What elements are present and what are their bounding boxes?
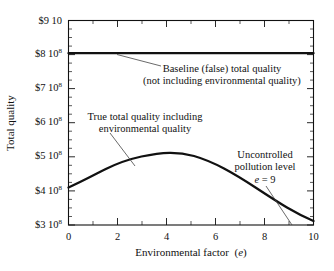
- x-tick-label-8: 8: [262, 231, 267, 242]
- annotation-uncontrolled-eq: = 9: [259, 174, 275, 185]
- annotation-uncontrolled-leader: [266, 186, 292, 225]
- y-axis-tick-labels: $9 10 $8 108 $7 108 $6 108 $5 108 $4 108…: [35, 15, 63, 230]
- annotation-uncontrolled-line1: Uncontrolled: [237, 149, 293, 160]
- y-tick-label-9e8: $9 10: [38, 15, 62, 26]
- x-axis-tick-labels: 0 2 4 6 8 10: [66, 231, 319, 242]
- annotation-baseline-line2: (not including environmental quality): [143, 75, 301, 87]
- y-tick-label-8e8: $8 108: [35, 47, 63, 59]
- y-tick-label-4e8: $4 108: [35, 184, 63, 196]
- annotation-uncontrolled: Uncontrolled pollution level e = 9: [235, 149, 296, 225]
- x-tick-label-4: 4: [164, 231, 170, 242]
- y-tick-label-7e8: $7 108: [35, 81, 63, 93]
- y-axis-right-ticks: [307, 21, 314, 226]
- chart-svg: $9 10 $8 108 $7 108 $6 108 $5 108 $4 108…: [0, 0, 334, 271]
- x-axis-title: Environmental factor (e): [135, 246, 247, 259]
- x-axis-ticks: [69, 218, 314, 225]
- x-axis-top-ticks: [69, 21, 314, 28]
- annotation-true-quality: True total quality including environment…: [88, 111, 204, 166]
- chart-figure: $9 10 $8 108 $7 108 $6 108 $5 108 $4 108…: [0, 0, 334, 271]
- y-tick-label-3e8: $3 108: [35, 218, 63, 230]
- x-tick-label-2: 2: [115, 231, 120, 242]
- x-tick-label-0: 0: [66, 231, 71, 242]
- annotation-true-quality-line1: True total quality including: [88, 111, 204, 122]
- x-tick-label-10: 10: [308, 231, 319, 242]
- annotation-true-quality-line2: environmental quality: [99, 123, 192, 134]
- y-tick-label-6e8: $6 108: [35, 115, 63, 127]
- annotation-baseline-leader: [117, 55, 161, 67]
- annotation-baseline: Baseline (false) total quality (not incl…: [117, 55, 301, 88]
- y-axis-title: Total quality: [4, 95, 16, 151]
- annotation-uncontrolled-line2: pollution level: [235, 161, 296, 172]
- y-tick-label-5e8: $5 108: [35, 149, 63, 161]
- y-axis-major-ticks: [69, 21, 76, 226]
- x-tick-label-6: 6: [213, 231, 218, 242]
- annotation-baseline-line1: Baseline (false) total quality: [163, 63, 282, 75]
- x-axis-title-text: Environmental factor (: [135, 246, 238, 259]
- annotation-uncontrolled-value: e = 9: [254, 174, 275, 185]
